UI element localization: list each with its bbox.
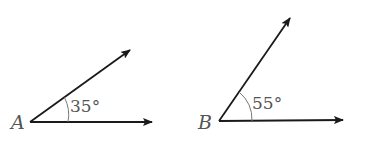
- vertex-label-b: B: [197, 111, 212, 133]
- angle-a: A 35°: [9, 50, 152, 133]
- vertex-label-a: A: [9, 111, 25, 133]
- angle-measure-b: 55°: [252, 93, 282, 113]
- angle-measure-a: 35°: [70, 96, 100, 116]
- angle-b: B 55°: [197, 18, 343, 133]
- angle-a-arc: [65, 98, 69, 123]
- angles-diagram: A 35° B 55°: [0, 0, 368, 141]
- angle-b-arc: [239, 92, 252, 121]
- angle-b-base-ray: [219, 120, 343, 121]
